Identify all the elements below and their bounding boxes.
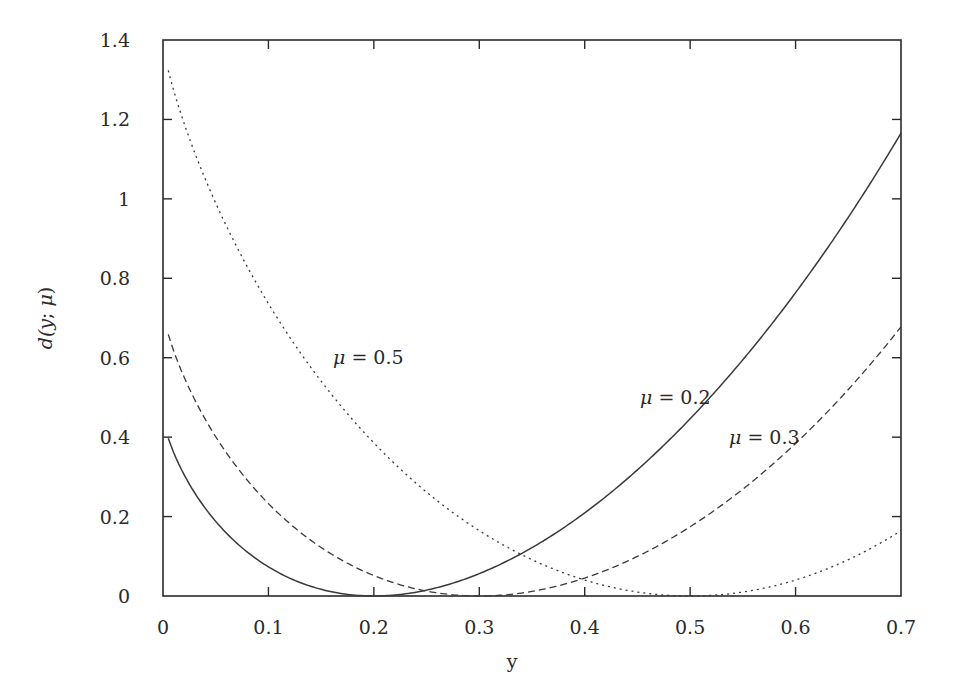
x-tick-label: 0: [157, 616, 169, 638]
y-axis-ticks: 00.20.40.60.811.21.4: [100, 29, 901, 607]
plot-border: [163, 40, 901, 596]
x-tick-label: 0.2: [359, 616, 389, 638]
annotation-mu-0-3: μ = 0.3: [729, 426, 800, 448]
x-tick-label: 0.6: [780, 616, 810, 638]
annotation-mu-0-2: μ = 0.2: [640, 386, 711, 408]
annotation-mu-0-5: μ = 0.5: [333, 346, 404, 368]
annotation-mu-symbol: μ: [333, 346, 345, 368]
y-axis-label-d: d(: [34, 329, 56, 349]
curves: [168, 70, 901, 596]
annotation-mu-symbol: μ: [729, 426, 741, 448]
x-tick-label: 0.4: [570, 616, 600, 638]
y-axis-label-mu: μ: [34, 294, 56, 306]
curve-dashed: [168, 327, 901, 596]
y-axis-label-y: y: [34, 319, 56, 331]
y-tick-label: 0.8: [100, 267, 130, 289]
x-tick-label: 0.3: [464, 616, 494, 638]
y-tick-label: 0: [118, 585, 130, 607]
x-tick-label: 0.5: [675, 616, 705, 638]
y-tick-label: 1: [118, 188, 130, 210]
y-tick-label: 1.2: [100, 108, 130, 130]
annotation-value: = 0.3: [741, 426, 799, 448]
y-axis-label-close: ): [34, 287, 56, 294]
x-tick-label: 0.1: [253, 616, 283, 638]
y-axis-label-sep: ;: [34, 307, 56, 319]
curve-solid: [168, 133, 901, 596]
y-tick-label: 1.4: [100, 29, 130, 51]
annotation-value: = 0.5: [345, 346, 403, 368]
plot-frame: [163, 40, 901, 596]
y-tick-label: 0.6: [100, 347, 130, 369]
annotation-mu-symbol: μ: [640, 386, 652, 408]
curve-dotted: [168, 70, 901, 596]
x-axis-ticks: 00.10.20.30.40.50.60.7: [157, 40, 916, 638]
y-tick-label: 0.4: [100, 426, 130, 448]
annotation-value: = 0.2: [652, 386, 710, 408]
x-axis-label: y: [506, 650, 518, 672]
x-tick-label: 0.7: [886, 616, 916, 638]
y-axis-label: d(y; μ): [34, 287, 56, 350]
y-tick-label: 0.2: [100, 506, 130, 528]
deviance-chart: 00.10.20.30.40.50.60.7 00.20.40.60.811.2…: [0, 0, 957, 698]
